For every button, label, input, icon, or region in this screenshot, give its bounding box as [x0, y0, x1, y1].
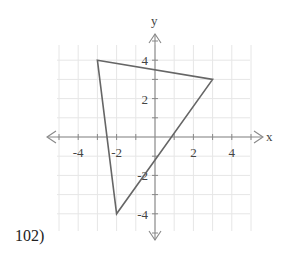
grid-lines: [57, 45, 251, 231]
x-tick-label: -4: [73, 145, 84, 160]
x-axis-label: x: [266, 129, 273, 144]
coordinate-plane: -4-22442-2-4 x y: [0, 0, 283, 258]
problem-number: 102): [15, 227, 44, 245]
y-tick-label: -2: [137, 168, 148, 183]
x-tick-label: 4: [229, 145, 236, 160]
y-tick-label: -4: [137, 207, 148, 222]
y-tick-label: 2: [142, 92, 149, 107]
axes: [47, 34, 263, 240]
coordinate-plane-figure: -4-22442-2-4 x y 102): [0, 0, 283, 258]
x-tick-label: 2: [190, 145, 197, 160]
y-tick-label: 4: [142, 53, 149, 68]
x-tick-label: -2: [111, 145, 122, 160]
y-axis-label: y: [151, 13, 158, 28]
